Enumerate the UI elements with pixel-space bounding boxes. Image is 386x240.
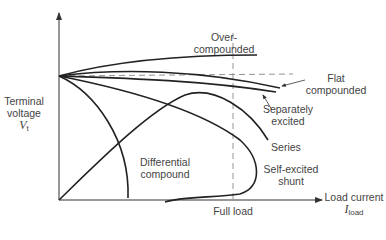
label-line: Flat: [300, 72, 372, 84]
label-line: Over-: [189, 31, 259, 43]
label-line: shunt: [258, 175, 324, 187]
label-differential-compound: Differential compound: [134, 156, 196, 180]
label-line: Self-excited: [258, 163, 324, 175]
curve-series: [59, 93, 268, 200]
label-line: compounded: [300, 84, 372, 96]
y-axis-symbol: Vt: [0, 119, 48, 135]
full-load-label: Full load: [206, 205, 260, 217]
symbol-subscript: load: [348, 208, 363, 217]
x-axis-symbol: Iload: [322, 203, 386, 219]
label-line: Load current: [322, 191, 386, 203]
curve-flat-compounded: [59, 72, 280, 88]
curve-separately-excited: [59, 76, 276, 92]
label-line: compounded: [189, 43, 259, 55]
label-line: Differential: [134, 156, 196, 168]
curve-self-excited-shunt: [59, 76, 257, 202]
label-line: Terminal: [0, 95, 48, 107]
curve-differential-compound: [59, 76, 128, 198]
label-line: Separately: [256, 103, 320, 115]
label-line: compound: [134, 168, 196, 180]
x-axis-label: Load current Iload: [322, 191, 386, 219]
label-line: Series: [266, 141, 306, 153]
symbol: V: [19, 118, 26, 132]
no-load-voltage-line: [59, 74, 293, 76]
symbol-subscript: t: [27, 124, 29, 133]
label-series: Series: [266, 141, 306, 153]
label-line: excited: [256, 115, 320, 127]
label-separately-excited: Separately excited: [256, 103, 320, 127]
label-flat-compounded: Flat compounded: [300, 72, 372, 96]
label-self-excited-shunt: Self-excited shunt: [258, 163, 324, 187]
label-over-compounded: Over- compounded: [189, 31, 259, 55]
y-axis-label: Terminal voltage Vt: [0, 95, 48, 135]
